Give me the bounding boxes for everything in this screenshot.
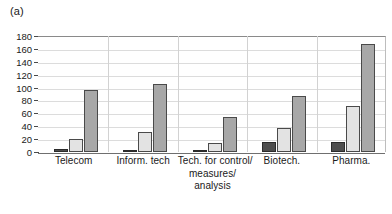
- bar: [84, 90, 98, 152]
- bar: [138, 132, 152, 152]
- group-separator: [317, 36, 318, 152]
- bar: [346, 106, 360, 152]
- group-separator: [108, 36, 109, 152]
- group-separator: [247, 36, 248, 152]
- gridline: [38, 153, 385, 154]
- y-axis-tick-label: 140: [2, 57, 32, 66]
- bar: [361, 44, 375, 152]
- x-axis-category-label: Pharma.: [317, 155, 386, 168]
- bar: [223, 117, 237, 152]
- x-axis-category-label: Biotech.: [247, 155, 316, 168]
- category-label-line: Telecom: [39, 155, 108, 168]
- bar: [153, 84, 167, 152]
- y-axis-tick-mark: [34, 36, 38, 37]
- y-axis-tick-mark: [34, 88, 38, 89]
- category-label-line: Inform. tech: [108, 155, 177, 168]
- y-axis-tick-mark: [34, 62, 38, 63]
- category-label-line: analysis: [178, 180, 247, 193]
- category-label-line: Tech. for control/: [178, 155, 247, 168]
- x-axis-category-label: Telecom: [39, 155, 108, 168]
- x-axis-category-label: Inform. tech: [108, 155, 177, 168]
- category-label-line: Biotech.: [247, 155, 316, 168]
- bar: [331, 142, 345, 152]
- y-axis-tick-label: 160: [2, 44, 32, 53]
- y-axis-tick-mark: [34, 139, 38, 140]
- x-axis-category-label: Tech. for control/measures/analysis: [178, 155, 247, 193]
- bar: [123, 150, 137, 152]
- category-label-line: Pharma.: [317, 155, 386, 168]
- y-axis-tick-label: 80: [2, 96, 32, 105]
- bars-layer: [39, 36, 386, 152]
- y-axis-tick-label: 0: [2, 148, 32, 157]
- category-label-line: measures/: [178, 168, 247, 181]
- panel-label: (a): [10, 5, 24, 18]
- bar: [277, 128, 291, 152]
- y-axis-tick-label: 20: [2, 135, 32, 144]
- bar: [54, 149, 68, 152]
- y-axis-tick-mark: [34, 75, 38, 76]
- y-axis-tick-labels: 180160140120100806040200: [0, 36, 32, 153]
- y-axis-tick-mark: [34, 49, 38, 50]
- y-axis-tick-label: 60: [2, 109, 32, 118]
- y-axis-tick-label: 180: [2, 32, 32, 41]
- y-axis-tick-mark: [34, 152, 38, 153]
- bar: [208, 143, 222, 152]
- figure-panel-a: (a) 180160140120100806040200 TelecomInfo…: [0, 0, 392, 214]
- y-axis-tick-mark: [34, 113, 38, 114]
- y-axis-tick-label: 40: [2, 122, 32, 131]
- bar: [292, 96, 306, 152]
- bar: [262, 142, 276, 152]
- bar: [193, 150, 207, 152]
- y-axis-tick-mark: [34, 100, 38, 101]
- group-separator: [178, 36, 179, 152]
- y-axis-tick-label: 100: [2, 83, 32, 92]
- y-axis-tick-mark: [34, 126, 38, 127]
- x-axis-category-labels: TelecomInform. techTech. for control/mea…: [39, 155, 386, 213]
- y-axis-tick-label: 120: [2, 70, 32, 79]
- bar: [69, 139, 83, 152]
